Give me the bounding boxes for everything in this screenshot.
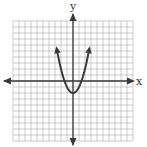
x-axis-left-arrow-icon xyxy=(3,78,11,85)
y-axis-label: y xyxy=(69,0,77,13)
y-axis-down-arrow-icon xyxy=(70,138,77,146)
coordinate-plane: x y xyxy=(0,0,147,147)
y-axis-up-arrow-icon xyxy=(70,13,77,21)
x-axis-label: x xyxy=(136,75,143,88)
x-axis-right-arrow-icon xyxy=(127,78,135,85)
